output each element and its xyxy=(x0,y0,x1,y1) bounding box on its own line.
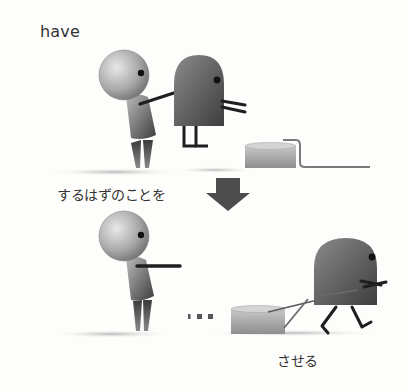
down-arrow-icon xyxy=(206,178,250,211)
ground-shadow xyxy=(50,330,174,338)
creature-leg xyxy=(352,307,371,327)
ground-shadow xyxy=(175,167,255,173)
creature-leg xyxy=(196,125,208,146)
creature-leg xyxy=(322,307,336,333)
creature-leg xyxy=(184,125,196,146)
creature-eye xyxy=(214,77,221,84)
rope xyxy=(284,299,308,328)
bottom-panel xyxy=(50,211,386,338)
dot xyxy=(197,314,202,319)
creature-arm xyxy=(222,101,245,105)
tub-rim xyxy=(245,143,296,150)
person-leg xyxy=(131,140,141,168)
person-eye xyxy=(138,70,144,76)
person-leg xyxy=(143,300,152,331)
dot xyxy=(208,314,213,319)
caption-have: have xyxy=(40,22,80,41)
creature-eye xyxy=(369,254,376,261)
person-leg xyxy=(143,140,153,168)
rope xyxy=(283,140,370,167)
creature-arm xyxy=(222,107,245,112)
creature-body xyxy=(174,55,224,126)
person-body xyxy=(126,256,154,300)
person-eye xyxy=(138,232,144,238)
person-figure-pointing xyxy=(99,211,180,331)
creature-figure xyxy=(174,55,245,146)
caption-supposed-to-do: するはずのことを xyxy=(57,184,165,204)
top-panel xyxy=(47,50,370,176)
person-figure xyxy=(99,50,183,168)
tub-with-rope xyxy=(245,140,370,168)
dot xyxy=(188,314,191,319)
creature-figure-walking xyxy=(314,238,386,333)
person-leg xyxy=(133,300,142,331)
ground-shadow xyxy=(47,168,183,176)
caption-make-do: させる xyxy=(277,350,318,370)
ellipsis-dots xyxy=(188,314,213,319)
illustration: have するはずのことを させる xyxy=(0,0,408,392)
ground-shadow xyxy=(202,330,382,337)
